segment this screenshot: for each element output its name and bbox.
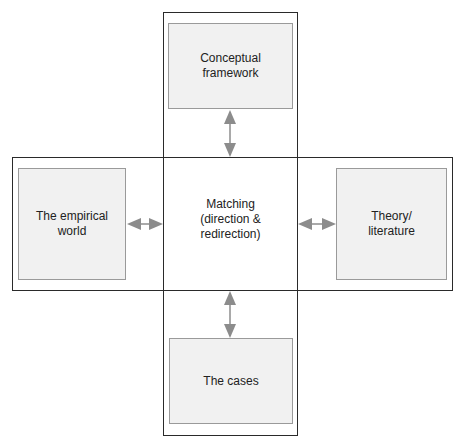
arrow-bottom-center [224,291,236,338]
arrow-right-center [298,218,336,230]
arrow-top-center [224,110,236,157]
arrows [0,0,465,447]
arrow-left-center [127,218,163,230]
